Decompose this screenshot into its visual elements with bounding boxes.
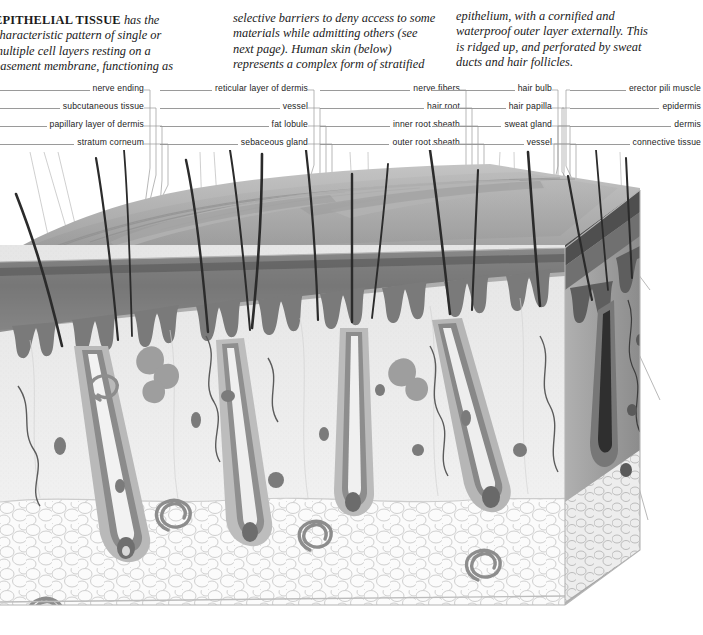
body-text-line: selective barriers to deny access to som… xyxy=(233,11,435,26)
label-callout-area: nerve ending subcutaneous tissue papilla… xyxy=(0,80,703,152)
body-text-column-1: EPITHELIAL TISSUE has the characteristic… xyxy=(0,13,173,74)
label-text: stratum corneum xyxy=(74,137,144,147)
hair-follicle xyxy=(334,328,374,516)
label-erector-pili-muscle[interactable]: erector pili muscle xyxy=(570,80,701,94)
label-text: vessel xyxy=(524,137,552,147)
label-text: subcutaneous tissue xyxy=(60,101,144,111)
label-subcutaneous-tissue[interactable]: subcutaneous tissue xyxy=(0,98,144,112)
label-text: connective tissue xyxy=(630,137,701,147)
label-reticular-layer-of-dermis[interactable]: reticular layer of dermis xyxy=(160,80,308,94)
skin-block-illustration xyxy=(0,150,703,635)
label-vessel-upper[interactable]: vessel xyxy=(160,98,308,112)
label-group-right: erector pili muscle epidermis dermis con… xyxy=(570,80,701,152)
body-text-line: characteristic pattern of single or xyxy=(0,28,173,43)
body-text-line: waterproof outer layer externally. This xyxy=(456,24,648,39)
label-hair-bulb[interactable]: hair bulb xyxy=(432,80,552,94)
label-text: papillary layer of dermis xyxy=(47,119,145,129)
label-nerve-ending[interactable]: nerve ending xyxy=(0,80,144,94)
body-text-line: multiple cell layers resting on a xyxy=(0,44,173,59)
label-text: fat lobule xyxy=(269,119,308,129)
body-text-line: ducts and hair follicles. xyxy=(456,55,648,70)
body-text-line: EPITHELIAL TISSUE has the xyxy=(0,13,173,28)
label-papillary-layer-of-dermis[interactable]: papillary layer of dermis xyxy=(0,116,144,130)
skin-block-svg xyxy=(0,150,703,635)
label-text: vessel xyxy=(280,101,308,111)
label-text: hair bulb xyxy=(515,83,552,93)
label-fat-lobule[interactable]: fat lobule xyxy=(160,116,308,130)
label-text: epidermis xyxy=(659,101,701,111)
epithelial-tissue-lead: EPITHELIAL TISSUE xyxy=(0,13,121,27)
label-text: dermis xyxy=(671,119,701,129)
body-text-column-3: epithelium, with a cornified and waterpr… xyxy=(456,9,648,70)
body-text-line: basement membrane, functioning as xyxy=(0,59,173,74)
label-text: sebaceous gland xyxy=(238,137,308,147)
label-connective-tissue[interactable]: connective tissue xyxy=(570,134,701,148)
label-text: nerve ending xyxy=(90,83,145,93)
label-epidermis[interactable]: epidermis xyxy=(570,98,701,112)
body-text-line: is ridged up, and perforated by sweat xyxy=(456,40,648,55)
label-text: hair papilla xyxy=(506,101,552,111)
body-text-line: materials while admitting others (see xyxy=(233,26,435,41)
label-sebaceous-gland[interactable]: sebaceous gland xyxy=(160,134,308,148)
label-vessel-lower[interactable]: vessel xyxy=(432,134,552,148)
label-sweat-gland[interactable]: sweat gland xyxy=(432,116,552,130)
label-text: erector pili muscle xyxy=(626,83,701,93)
label-group-four: hair bulb hair papilla sweat gland vesse… xyxy=(432,80,552,152)
body-text-line: epithelium, with a cornified and xyxy=(456,9,648,24)
label-hair-papilla[interactable]: hair papilla xyxy=(432,98,552,112)
body-text-column-2: selective barriers to deny access to som… xyxy=(233,11,435,72)
label-text: reticular layer of dermis xyxy=(212,83,308,93)
body-text-line: next page). Human skin (below) xyxy=(233,42,435,57)
label-dermis[interactable]: dermis xyxy=(570,116,701,130)
label-group-left: nerve ending subcutaneous tissue papilla… xyxy=(0,80,144,152)
front-cut-face xyxy=(0,245,570,628)
body-text-line: represents a complex form of stratified xyxy=(233,57,435,72)
body-text-block: EPITHELIAL TISSUE has the characteristic… xyxy=(0,0,703,78)
label-group-two: reticular layer of dermis vessel fat lob… xyxy=(160,80,308,152)
label-text: sweat gland xyxy=(501,119,552,129)
hair-papilla-shape xyxy=(122,546,130,556)
label-stratum-corneum[interactable]: stratum corneum xyxy=(0,134,144,148)
body-text-line-rest: has the xyxy=(121,13,160,27)
